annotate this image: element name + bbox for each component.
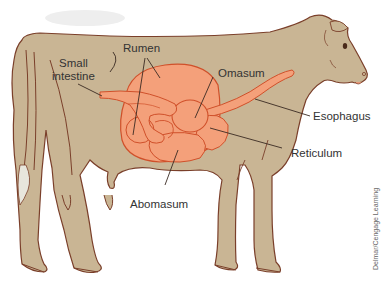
label-small-intestine-line2: intestine [52,70,95,83]
cow-digestive-diagram [0,0,386,292]
label-rumen: Rumen [123,42,160,55]
label-abomasum: Abomasum [130,198,188,211]
label-reticulum: Reticulum [291,147,342,160]
image-credit: Delmar/Cengage Learning [372,188,379,270]
omasum-organ [172,100,208,132]
label-omasum: Omasum [218,67,265,80]
label-small-intestine-line1: Small [52,57,95,70]
label-small-intestine: Small intestine [52,57,95,83]
label-esophagus: Esophagus [313,110,371,123]
smudge-shadow [45,10,125,26]
cow-eye [343,43,347,49]
